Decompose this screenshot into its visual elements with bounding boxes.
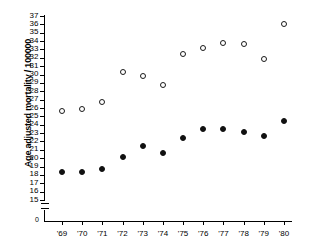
y-tick: 28 [40, 91, 44, 92]
data-point-filled-circles [241, 129, 247, 135]
y-tick: 31 [40, 66, 44, 67]
x-tick [82, 221, 83, 225]
x-tick-label: '78 [238, 229, 248, 238]
x-tick [62, 221, 63, 225]
y-tick: 16 [40, 192, 44, 193]
y-tick: 33 [40, 49, 44, 50]
x-tick [264, 221, 265, 225]
y-tick: 20 [40, 158, 44, 159]
x-tick-label: '72 [117, 229, 127, 238]
data-point-open-circles [241, 41, 247, 47]
y-tick: 36 [40, 24, 44, 25]
x-tick-label: '77 [218, 229, 228, 238]
x-tick-label: '70 [77, 229, 87, 238]
data-point-open-circles [79, 106, 85, 112]
data-point-open-circles [160, 82, 166, 88]
data-point-filled-circles [79, 169, 85, 175]
x-tick [223, 221, 224, 225]
data-point-filled-circles [220, 126, 226, 132]
x-tick [183, 221, 184, 225]
y-tick: 32 [40, 58, 44, 59]
axis-break-mark-lower [41, 208, 49, 209]
y-tick: 37 [40, 16, 44, 17]
y-tick: 29 [40, 83, 44, 84]
x-tick-label: '71 [97, 229, 107, 238]
data-point-filled-circles [200, 126, 206, 132]
y-tick: 30 [40, 75, 44, 76]
x-tick-label: '76 [198, 229, 208, 238]
x-tick-label: '73 [138, 229, 148, 238]
chart-figure: Age adjusted mortality / 100000 0 373635… [0, 0, 311, 250]
y-tick: 15 [40, 200, 44, 201]
x-tick-label: '69 [57, 229, 67, 238]
y-tick: 25 [40, 116, 44, 117]
plot-area: 0 37363534333231302928272625242322212019… [44, 10, 294, 222]
data-point-open-circles [99, 99, 105, 105]
origin-label: 0 [35, 216, 39, 223]
axis-break-mark-upper [41, 203, 49, 204]
x-tick [163, 221, 164, 225]
y-tick: 21 [40, 150, 44, 151]
data-point-open-circles [180, 51, 186, 57]
y-tick: 19 [40, 167, 44, 168]
y-axis-line [44, 15, 45, 201]
data-point-filled-circles [281, 118, 287, 124]
y-tick: 24 [40, 125, 44, 126]
x-tick-label: '80 [279, 229, 289, 238]
y-tick: 22 [40, 141, 44, 142]
data-point-open-circles [261, 56, 267, 62]
data-point-filled-circles [140, 143, 146, 149]
data-point-filled-circles [180, 135, 186, 141]
y-tick: 35 [40, 33, 44, 34]
data-point-open-circles [140, 73, 146, 79]
data-point-filled-circles [120, 154, 126, 160]
x-tick [143, 221, 144, 225]
y-tick-label: 15 [30, 195, 39, 205]
x-tick [102, 221, 103, 225]
data-point-open-circles [220, 40, 226, 46]
data-point-filled-circles [99, 166, 105, 172]
y-tick: 23 [40, 133, 44, 134]
data-point-filled-circles [59, 169, 65, 175]
data-point-open-circles [120, 69, 126, 75]
y-tick: 34 [40, 41, 44, 42]
data-point-filled-circles [261, 133, 267, 139]
y-tick: 26 [40, 108, 44, 109]
y-tick: 27 [40, 100, 44, 101]
data-point-open-circles [281, 21, 287, 27]
y-tick: 18 [40, 175, 44, 176]
x-tick [244, 221, 245, 225]
y-tick: 17 [40, 183, 44, 184]
x-tick [203, 221, 204, 225]
data-point-open-circles [59, 108, 65, 114]
data-point-filled-circles [160, 150, 166, 156]
x-tick-label: '75 [178, 229, 188, 238]
x-tick-label: '79 [259, 229, 269, 238]
x-tick [284, 221, 285, 225]
x-tick [123, 221, 124, 225]
x-tick-label: '74 [158, 229, 168, 238]
data-point-open-circles [200, 45, 206, 51]
